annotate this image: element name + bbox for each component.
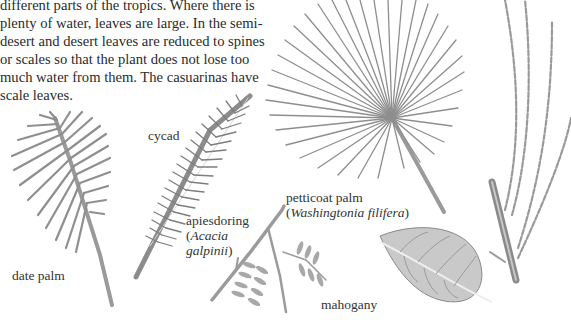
paragraph-line: much water from them. The casuarinas hav… [0, 68, 268, 86]
apiesdoring-label: apiesdoring (Acacia galpinii) [186, 213, 249, 258]
petticoat-palm-common-name: petticoat palm [286, 190, 409, 205]
paragraph-line: plenty of water, leaves are large. In th… [0, 14, 268, 32]
cycad-label: cycad [148, 128, 179, 143]
petticoat-palm-illustration [266, 0, 464, 212]
paragraph-line: scale leaves. [0, 86, 268, 104]
mahogany-illustration [380, 228, 492, 302]
acacia-scientific-name-line1: (Acacia [186, 228, 249, 243]
body-paragraph: different parts of the tropics. Where th… [0, 0, 268, 104]
paragraph-line: or scales so that the plant does not los… [0, 50, 268, 68]
paragraph-line: desert and desert leaves are reduced to … [0, 32, 268, 50]
acacia-scientific-name-line2: galpinii) [186, 243, 249, 258]
paragraph-line: different parts of the tropics. Where th… [0, 0, 268, 14]
apiesdoring-common-name: apiesdoring [186, 213, 249, 228]
petticoat-palm-label: petticoat palm (Washingtonia filifera) [286, 190, 409, 220]
mahogany-label: mahogany [321, 297, 377, 312]
date-palm-label: date palm [12, 268, 65, 283]
casuarina-illustration [490, 0, 571, 280]
washingtonia-scientific-name: (Washingtonia filifera) [286, 205, 409, 220]
